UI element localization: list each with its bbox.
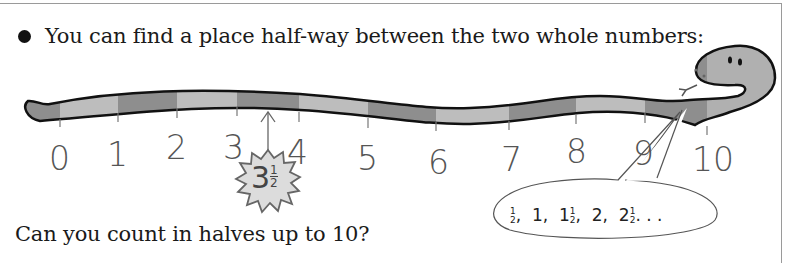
number-label-7: 7 xyxy=(501,140,522,179)
number-label-8: 8 xyxy=(566,132,587,171)
number-label-3: 3 xyxy=(223,128,244,167)
number-label-9: 9 xyxy=(633,134,654,173)
snake-body xyxy=(0,40,791,140)
starburst-whole: 3 xyxy=(251,160,270,195)
number-label-6: 6 xyxy=(428,143,449,182)
snake-tongue xyxy=(679,85,697,96)
number-label-1: 1 xyxy=(107,135,128,174)
number-label-5: 5 xyxy=(357,139,378,178)
snake-nostril xyxy=(695,69,698,72)
snake-eye-icon xyxy=(728,57,732,64)
snake-eye-icon xyxy=(738,59,742,66)
starburst-fraction: 12 xyxy=(270,164,278,189)
number-label-0: 0 xyxy=(49,139,70,178)
number-label-2: 2 xyxy=(166,128,187,167)
number-label-10: 10 xyxy=(692,140,734,179)
starburst-label: 312 xyxy=(251,160,278,195)
number-label-4: 4 xyxy=(287,133,308,172)
speech-bubble-text: 12, 1, 112, 2, 212. . . xyxy=(510,205,662,225)
question-text: Can you count in halves up to 10? xyxy=(15,222,369,246)
snake-nostril xyxy=(703,75,706,78)
